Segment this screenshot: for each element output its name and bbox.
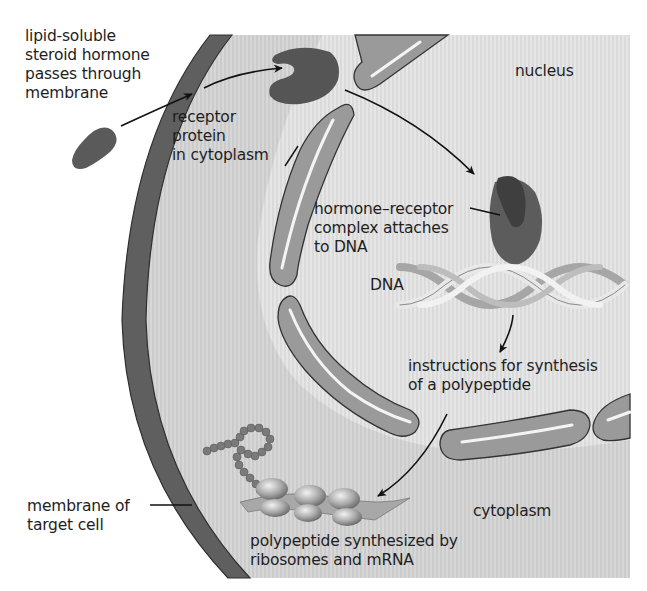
label-receptor-protein: receptor protein in cytoplasm (172, 108, 269, 165)
label-instructions: instructions for synthesis of a polypept… (408, 357, 598, 395)
diagram: lipid-soluble steroid hormone passes thr… (0, 0, 647, 591)
steroid-hormone-icon (72, 128, 117, 169)
label-nucleus: nucleus (515, 62, 574, 81)
label-hormone-receptor-complex: hormone–receptor complex attaches to DNA (314, 200, 453, 257)
label-cytoplasm: cytoplasm (473, 502, 551, 521)
label-membrane: membrane of target cell (27, 497, 129, 535)
label-polypeptide: polypeptide synthesized by ribosomes and… (250, 532, 458, 570)
label-dna: DNA (370, 276, 404, 295)
label-hormone-entry: lipid-soluble steroid hormone passes thr… (25, 27, 150, 103)
